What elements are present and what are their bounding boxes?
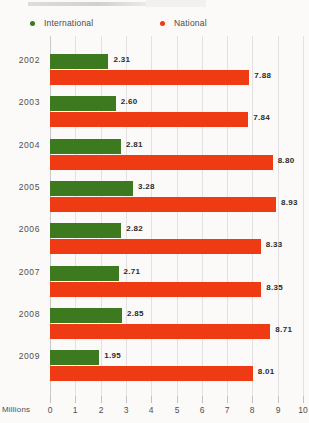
x-tick-mark: [303, 396, 304, 403]
x-tick-mark: [101, 396, 102, 403]
bar-international: [50, 223, 121, 238]
bar-group: 20042.818.80: [0, 127, 309, 169]
x-tick-label: 2: [94, 405, 108, 415]
x-tick-label: 7: [220, 405, 234, 415]
x-tick-label: 3: [119, 405, 133, 415]
bar-international: [50, 266, 119, 281]
category-label: 2002: [0, 55, 40, 65]
bar-national: [50, 324, 270, 339]
bar-national: [50, 197, 276, 212]
legend-item-national[interactable]: National: [160, 14, 207, 32]
x-tick-mark: [252, 396, 253, 403]
bar-value-label: 8.01: [258, 367, 275, 376]
x-axis: Millions 012345678910: [0, 396, 309, 423]
bar-value-label: 2.60: [121, 97, 138, 106]
bar-value-label: 2.82: [126, 224, 143, 233]
bar-value-label: 1.95: [104, 351, 121, 360]
bar-national: [50, 112, 248, 127]
scan-artifact-block: [146, 0, 206, 7]
x-tick-mark: [75, 396, 76, 403]
category-label: 2007: [0, 267, 40, 277]
category-label: 2003: [0, 97, 40, 107]
bar-value-label: 2.71: [124, 267, 141, 276]
legend-label: National: [174, 18, 207, 28]
bar-value-label: 8.33: [266, 240, 283, 249]
bar-national: [50, 282, 261, 297]
bar-group: 20072.718.35: [0, 254, 309, 296]
bar-group: 20022.317.88: [0, 42, 309, 84]
bar-national: [50, 239, 261, 254]
bar-value-label: 8.35: [266, 283, 283, 292]
bar-value-label: 8.93: [281, 198, 298, 207]
x-tick-label: 4: [144, 405, 158, 415]
category-label: 2008: [0, 309, 40, 319]
x-tick-label: 10: [296, 405, 309, 415]
x-tick-label: 5: [170, 405, 184, 415]
bar-value-label: 7.84: [253, 113, 270, 122]
bar-value-label: 3.28: [138, 182, 155, 191]
x-tick-mark: [50, 396, 51, 403]
category-label: 2005: [0, 182, 40, 192]
x-tick-mark: [151, 396, 152, 403]
legend-dot-national-icon: [160, 21, 165, 26]
scan-artifact-line: [28, 2, 146, 6]
x-tick-label: 0: [43, 405, 57, 415]
x-tick-mark: [202, 396, 203, 403]
bar-international: [50, 181, 133, 196]
bar-value-label: 2.85: [127, 309, 144, 318]
bar-value-label: 8.71: [275, 325, 292, 334]
bar-national: [50, 155, 273, 170]
bar-group: 20082.858.71: [0, 296, 309, 338]
x-tick-mark: [177, 396, 178, 403]
chart-page: InternationalNational 20022.317.8820032.…: [0, 0, 309, 423]
bar-value-label: 2.31: [113, 55, 130, 64]
category-label: 2006: [0, 224, 40, 234]
chart-legend: InternationalNational: [0, 14, 309, 32]
bar-value-label: 8.80: [278, 156, 295, 165]
legend-item-international[interactable]: International: [30, 14, 93, 32]
legend-label: International: [44, 18, 93, 28]
x-tick-label: 6: [195, 405, 209, 415]
bar-international: [50, 139, 121, 154]
bar-international: [50, 350, 99, 365]
legend-dot-international-icon: [30, 21, 35, 26]
bar-group: 20091.958.01: [0, 338, 309, 380]
bar-value-label: 2.81: [126, 140, 143, 149]
bar-international: [50, 96, 116, 111]
plot-area: 20022.317.8820032.607.8420042.818.802005…: [0, 36, 309, 396]
x-tick-mark: [126, 396, 127, 403]
x-tick-label: 9: [271, 405, 285, 415]
category-label: 2009: [0, 351, 40, 361]
x-tick-label: 8: [245, 405, 259, 415]
x-tick-label: 1: [68, 405, 82, 415]
category-label: 2004: [0, 140, 40, 150]
bar-group: 20032.607.84: [0, 84, 309, 126]
bar-international: [50, 308, 122, 323]
bar-international: [50, 54, 108, 69]
x-axis-title: Millions: [2, 405, 30, 414]
bar-value-label: 7.88: [254, 71, 271, 80]
x-tick-mark: [227, 396, 228, 403]
bar-national: [50, 70, 249, 85]
bar-national: [50, 366, 253, 381]
x-tick-mark: [278, 396, 279, 403]
bar-group: 20053.288.93: [0, 169, 309, 211]
bar-group: 20062.828.33: [0, 211, 309, 253]
